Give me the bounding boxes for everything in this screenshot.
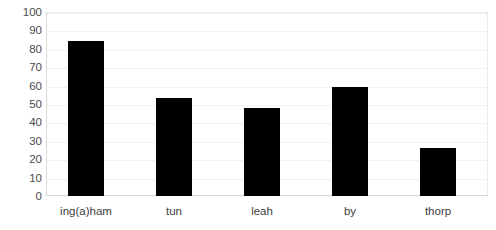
bar-slot: [420, 12, 456, 196]
bar-slot: [332, 12, 368, 196]
bars-layer: [46, 12, 488, 196]
x-axis-tick-label: tun: [134, 204, 214, 218]
y-axis-tick-label: 40: [2, 117, 42, 128]
x-axis-tick-label: leah: [222, 204, 302, 218]
y-axis-tick-label: 0: [2, 191, 42, 202]
y-axis-tick-label: 90: [2, 25, 42, 36]
bar-chart: 100 90 80 70 60 50 40 30 20 10 0 ing(a)h…: [0, 0, 496, 230]
bar[interactable]: [156, 98, 192, 196]
x-axis-tick-label: ing(a)ham: [46, 204, 126, 218]
y-axis-tick-label: 100: [2, 7, 42, 18]
bar-slot: [68, 12, 104, 196]
bar[interactable]: [68, 41, 104, 196]
bar[interactable]: [420, 148, 456, 196]
y-axis-tick-label: 60: [2, 80, 42, 91]
y-axis-tick-label: 20: [2, 154, 42, 165]
bar[interactable]: [244, 108, 280, 196]
y-axis-tick-labels: 100 90 80 70 60 50 40 30 20 10 0: [0, 0, 42, 230]
bar-slot: [156, 12, 192, 196]
bar-slot: [244, 12, 280, 196]
x-axis-tick-label: by: [310, 204, 390, 218]
x-axis-tick-labels: ing(a)ham tun leah by thorp: [46, 200, 488, 226]
y-axis-tick-label: 10: [2, 172, 42, 183]
y-axis-tick-label: 80: [2, 43, 42, 54]
y-axis-tick-label: 70: [2, 62, 42, 73]
y-axis-tick-label: 30: [2, 135, 42, 146]
x-axis-tick-label: thorp: [398, 204, 478, 218]
bar[interactable]: [332, 87, 368, 196]
y-axis-tick-label: 50: [2, 99, 42, 110]
